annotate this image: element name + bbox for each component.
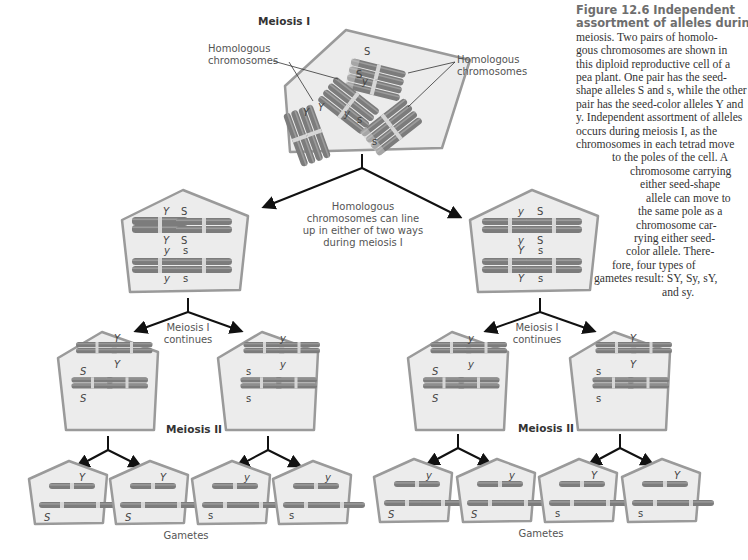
- svg-text:y: y: [467, 359, 475, 370]
- svg-text:s: s: [596, 393, 601, 404]
- svg-text:s: s: [638, 508, 643, 519]
- svg-text:s: s: [596, 366, 601, 377]
- allele-label: Y: [318, 102, 325, 113]
- allele-label: y: [517, 206, 525, 217]
- homologous-label-right: chromosomes: [457, 66, 527, 77]
- allele-label: s: [183, 245, 188, 256]
- continues-label-left: Meiosis I: [166, 322, 209, 333]
- allele-label: Y: [163, 206, 170, 217]
- svg-text:Y: Y: [160, 472, 167, 483]
- allele-label: s: [538, 273, 543, 284]
- svg-text:y: y: [508, 470, 516, 481]
- gamete-cell-1: Y S: [29, 461, 121, 524]
- allele-label: S: [537, 206, 543, 217]
- caption-line: meiosis. Two pairs of homolo-: [576, 31, 744, 44]
- caption-line: y. Independent assortment of alleles: [576, 111, 744, 124]
- caption-line: assortment of alleles during: [576, 17, 744, 30]
- svg-text:S: S: [125, 512, 132, 523]
- svg-text:s: s: [555, 508, 560, 519]
- svg-text:S: S: [388, 509, 395, 520]
- svg-text:Y: Y: [674, 470, 681, 481]
- caption-line: pea plant. One pair has the seed-: [576, 71, 744, 84]
- caption-line: chromosome carrying: [576, 165, 744, 178]
- allele-label: S: [364, 46, 370, 57]
- caption-line: rying either seed-: [576, 232, 744, 245]
- caption-line: color allele. There-: [576, 245, 744, 258]
- svg-text:y: y: [279, 333, 287, 344]
- allele-label: s: [183, 273, 188, 284]
- continues-label-right: Meiosis I: [515, 322, 558, 333]
- svg-text:Y: Y: [591, 470, 598, 481]
- caption-line: Figure 12.6 Independent: [576, 4, 744, 17]
- gamete-cell-8: Y s: [622, 459, 714, 522]
- homologous-label-left: chromosomes: [208, 55, 278, 66]
- caption-line: chromosome car-: [576, 219, 744, 232]
- caption-line: this diploid reproductive cell of a: [576, 58, 744, 71]
- caption-line: to the poles of the cell. A: [576, 151, 744, 164]
- svg-text:Y: Y: [114, 359, 121, 370]
- meiosis-2-heading-left: Meiosis II: [166, 423, 222, 435]
- gamete-cell-6: y S: [457, 459, 549, 522]
- allele-label: s: [357, 114, 362, 125]
- svg-text:y: y: [324, 472, 332, 483]
- gametes-label-right: Gametes: [518, 528, 563, 539]
- allele-label: y: [343, 108, 351, 119]
- allele-label: Y: [303, 107, 310, 118]
- caption-line: fore, four types of: [576, 259, 744, 272]
- caption-line: occurs during meiosis I, as the: [576, 125, 744, 138]
- daughter-cell-3: y y S S: [408, 332, 508, 430]
- gamete-cell-7: Y s: [539, 459, 631, 522]
- svg-text:Y: Y: [114, 333, 121, 344]
- allele-label: y: [361, 76, 369, 87]
- caption-line: either seed-shape: [576, 178, 744, 191]
- allele-label: y: [163, 245, 171, 256]
- gametes-label-left: Gametes: [163, 530, 208, 541]
- svg-text:Y: Y: [630, 333, 637, 344]
- caption-line: chromosomes in each tetrad move: [576, 138, 744, 151]
- svg-text:S: S: [44, 512, 51, 523]
- svg-text:S: S: [432, 366, 439, 377]
- lineup-text: chromosomes can line: [307, 213, 420, 224]
- caption-line: allele can move to: [576, 192, 744, 205]
- svg-text:s: s: [246, 366, 251, 377]
- svg-text:y: y: [467, 333, 475, 344]
- caption-line: gametes result: SY, Sy, sY,: [576, 272, 744, 285]
- gamete-cell-4: y s: [273, 461, 365, 524]
- meiosis-2-arrows: [78, 434, 652, 466]
- daughter-cell-4: Y Y s s: [570, 332, 672, 430]
- meiosis-1-heading: Meiosis I: [258, 15, 310, 27]
- caption-line: the same pole as a: [576, 205, 744, 218]
- gamete-cell-5: y S: [374, 459, 466, 522]
- allele-label: s: [372, 136, 377, 147]
- svg-text:Y: Y: [79, 472, 86, 483]
- svg-text:S: S: [432, 393, 439, 404]
- allele-label: Y: [518, 273, 525, 284]
- lineup-text: during meiosis I: [323, 237, 403, 248]
- allele-label: S: [181, 206, 187, 217]
- homologous-label-right: Homologous: [457, 54, 519, 65]
- figure-caption: Figure 12.6 Independentassortment of all…: [576, 4, 744, 299]
- svg-text:Y: Y: [630, 359, 637, 370]
- gamete-cell-3: y s: [192, 461, 284, 524]
- svg-text:S: S: [80, 366, 87, 377]
- svg-text:s: s: [289, 510, 294, 521]
- svg-text:y: y: [243, 472, 251, 483]
- meiosis-2-heading-right: Meiosis II: [518, 422, 574, 434]
- continues-label-right: continues: [513, 334, 562, 345]
- lineup-text: Homologous: [332, 201, 394, 212]
- svg-text:s: s: [246, 393, 251, 404]
- allele-label: s: [538, 245, 543, 256]
- svg-text:s: s: [208, 510, 213, 521]
- daughter-cell-1: Y Y S S: [58, 332, 158, 430]
- lineup-text: up in either of two ways: [303, 225, 423, 236]
- caption-line: and sy.: [576, 286, 744, 299]
- caption-line: shape alleles S and s, while the other: [576, 84, 744, 97]
- svg-text:y: y: [279, 359, 287, 370]
- gamete-cell-2: Y S: [110, 461, 202, 524]
- svg-text:S: S: [80, 393, 87, 404]
- allele-label: Y: [518, 245, 525, 256]
- svg-text:S: S: [471, 509, 478, 520]
- svg-text:y: y: [425, 470, 433, 481]
- continues-label-left: continues: [164, 334, 213, 345]
- homologous-label-left: Homologous: [208, 43, 270, 54]
